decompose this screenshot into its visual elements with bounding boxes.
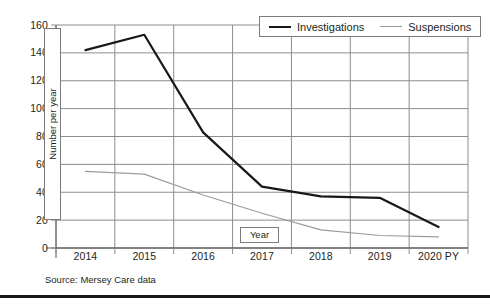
x-axis-title-label: Year [250,230,269,240]
bottom-divider [0,295,490,298]
y-tick-label-80: 80 [14,131,48,142]
x-axis-tick-labels: 2014201520162017201820192020 PY [56,250,468,270]
x-tick-label-2017: 2017 [233,250,292,262]
y-tick-label-140: 140 [14,47,48,58]
legend-entry-suspensions: Suspensions [380,21,471,33]
axis-lines [46,25,468,258]
y-axis-title: Number per year [44,28,61,220]
x-tick-label-2018: 2018 [291,250,350,262]
y-tick-label-120: 120 [14,75,48,86]
x-tick-label-2014: 2014 [56,250,115,262]
y-tick-label-100: 100 [14,103,48,114]
legend-entry-investigations: Investigations [269,21,364,33]
line-swatch-suspensions [380,26,402,27]
x-tick-label-2020-py: 2020 PY [409,250,468,262]
horizontal-gridlines [56,25,468,248]
legend-label-investigations: Investigations [297,21,364,33]
y-tick-label-60: 60 [14,159,48,170]
legend-label-suspensions: Suspensions [408,21,471,33]
figure-container: 020406080100120140160 Number per year 20… [0,0,490,306]
chart-legend: InvestigationsSuspensions [259,16,481,37]
y-tick-label-0: 0 [14,243,48,254]
y-tick-label-160: 160 [14,20,48,31]
x-tick-label-2015: 2015 [115,250,174,262]
line-swatch-investigations [269,26,291,28]
x-axis-title: Year [240,227,279,243]
series-lines [85,35,438,237]
series-line-investigations [85,35,438,227]
y-axis-title-label: Number per year [48,88,58,159]
x-tick-label-2016: 2016 [174,250,233,262]
source-note: Source: Mersey Care data [45,274,156,285]
x-tick-label-2019: 2019 [350,250,409,262]
y-tick-label-20: 20 [14,215,48,226]
y-tick-label-40: 40 [14,187,48,198]
y-axis-tick-labels: 020406080100120140160 [0,0,48,306]
